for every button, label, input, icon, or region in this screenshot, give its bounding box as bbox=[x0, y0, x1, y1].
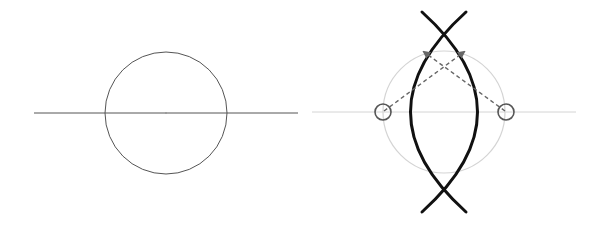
diagram-svg bbox=[0, 0, 602, 227]
right-panel bbox=[312, 12, 576, 212]
diagram-canvas bbox=[0, 0, 602, 227]
left-center-dot bbox=[165, 112, 167, 114]
left-panel bbox=[34, 52, 298, 174]
